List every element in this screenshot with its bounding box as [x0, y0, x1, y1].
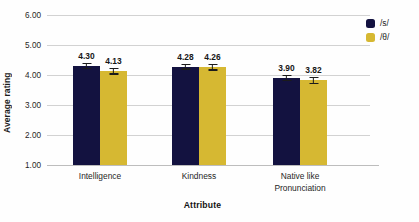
- x-axis-title-text: Attribute: [184, 200, 222, 210]
- error-bar-cap-bottom: [82, 68, 91, 69]
- bar-value-label: 3.82: [305, 65, 321, 75]
- x-axis-title: Attribute: [0, 200, 419, 210]
- error-bar: [208, 64, 217, 71]
- legend-item[interactable]: /s/: [366, 18, 389, 28]
- bar-rect: [100, 71, 127, 165]
- y-axis-tick-label: 3.00: [11, 101, 41, 110]
- bar-rect: [199, 67, 226, 165]
- legend-label: /θ/: [380, 32, 389, 42]
- bar-value-label: 4.13: [105, 56, 121, 66]
- legend-item[interactable]: /θ/: [366, 32, 389, 42]
- error-bar: [309, 77, 318, 84]
- error-bar-cap-bottom: [181, 68, 190, 69]
- error-bar-cap-top: [282, 75, 291, 76]
- legend-swatch-icon: [366, 33, 375, 42]
- x-axis-category-label: Kindness: [144, 171, 254, 183]
- bar-value-label: 3.90: [278, 63, 294, 73]
- bar-group: 4.284.26: [172, 15, 226, 165]
- bar-theta[interactable]: 4.13: [100, 71, 127, 165]
- y-axis-tick-label: 4.00: [11, 71, 41, 80]
- bar-rect: [300, 80, 327, 165]
- bar-s[interactable]: 4.30: [73, 66, 100, 165]
- error-bar-cap-top: [208, 64, 217, 65]
- y-axis-tick-label: 1.00: [11, 161, 41, 170]
- y-axis-tick-label: 6.00: [11, 11, 41, 20]
- bar-chart: Average rating 6.005.004.003.002.001.004…: [0, 0, 419, 222]
- bar-group: 3.903.82: [273, 15, 327, 165]
- bar-theta[interactable]: 3.82: [300, 80, 327, 165]
- error-bar: [282, 75, 291, 82]
- gridline: [47, 165, 379, 166]
- y-axis-tick-label: 5.00: [11, 41, 41, 50]
- bar-rect: [73, 66, 100, 165]
- error-bar-cap-bottom: [109, 73, 118, 74]
- error-bar-cap-bottom: [208, 69, 217, 70]
- error-bar-cap-top: [109, 68, 118, 69]
- error-bar-cap-top: [309, 77, 318, 78]
- error-bar-cap-top: [82, 63, 91, 64]
- bar-group: 4.304.13: [73, 15, 127, 165]
- x-axis-category-label: Native like Pronunciation: [245, 171, 355, 194]
- bar-value-label: 4.30: [78, 51, 94, 61]
- bar-rect: [273, 78, 300, 165]
- error-bar-cap-top: [181, 64, 190, 65]
- legend-swatch-icon: [366, 19, 375, 28]
- legend-label: /s/: [380, 18, 389, 28]
- y-axis-tick-label: 2.00: [11, 131, 41, 140]
- error-bar: [82, 63, 91, 70]
- bar-rect: [172, 67, 199, 165]
- error-bar-cap-bottom: [309, 83, 318, 84]
- error-bar: [109, 68, 118, 75]
- bar-value-label: 4.26: [204, 52, 220, 62]
- error-bar: [181, 64, 190, 70]
- bar-theta[interactable]: 4.26: [199, 67, 226, 165]
- chart-legend: /s//θ/: [366, 18, 389, 42]
- plot-area: 6.005.004.003.002.001.004.304.134.284.26…: [47, 15, 370, 165]
- bar-s[interactable]: 4.28: [172, 67, 199, 165]
- error-bar-cap-bottom: [282, 80, 291, 81]
- x-axis-category-label: Intelligence: [45, 171, 155, 183]
- bar-s[interactable]: 3.90: [273, 78, 300, 165]
- bar-value-label: 4.28: [177, 52, 193, 62]
